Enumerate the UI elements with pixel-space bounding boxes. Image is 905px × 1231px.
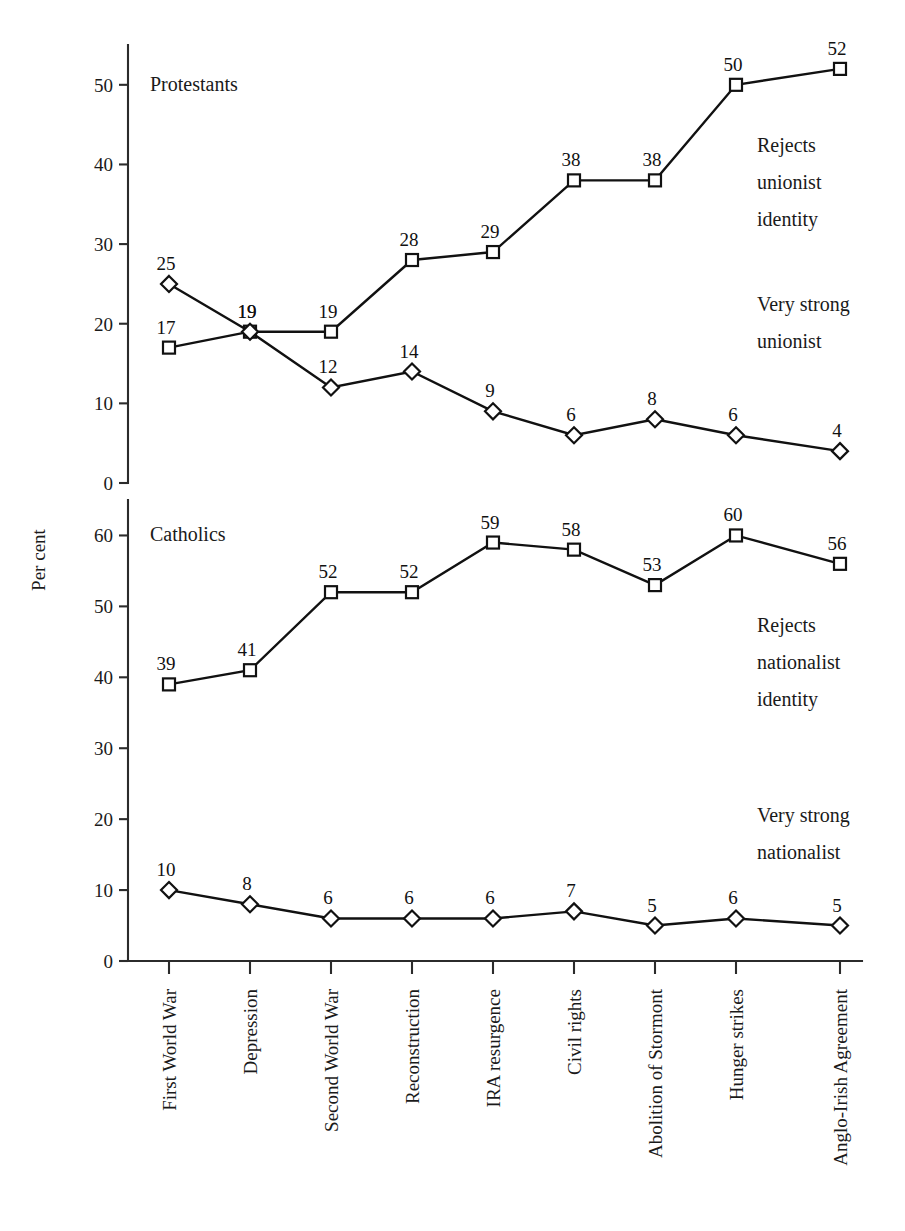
panel-catholics: 0102030405060First World WarDepressionSe… (94, 500, 862, 1166)
data-point-label: 60 (724, 504, 743, 525)
data-point-label: 52 (828, 38, 847, 59)
y-tick-label-40: 40 (94, 154, 113, 175)
data-point-marker (649, 579, 661, 591)
y-tick-label-10: 10 (94, 880, 113, 901)
data-point-label: 9 (485, 380, 495, 401)
panel-protestants: 01020304050Protestants171919282938385052… (94, 38, 850, 494)
panel-title-protestants: Protestants (150, 73, 238, 95)
data-point-marker (568, 544, 580, 556)
data-point-label: 56 (828, 533, 847, 554)
y-tick-label-10: 10 (94, 393, 113, 414)
legend-rejects-unionist-identity-line-2: identity (757, 208, 818, 231)
data-point-label: 6 (485, 887, 495, 908)
x-tick-label-2: Second World War (321, 988, 342, 1132)
data-point-label: 6 (566, 404, 576, 425)
legend-rejects-unionist-identity-line-0: Rejects (757, 134, 816, 157)
series-catholics-0: 394152525958536056 (157, 504, 847, 690)
y-tick-label-0: 0 (104, 473, 114, 494)
legend-very-strong-unionist-line-0: Very strong (757, 293, 850, 316)
data-point-marker (730, 529, 742, 541)
data-point-label: 52 (400, 561, 419, 582)
data-point-marker (568, 174, 580, 186)
y-tick-label-30: 30 (94, 234, 113, 255)
x-tick-label-7: Hunger strikes (726, 989, 747, 1100)
data-point-label: 17 (157, 317, 176, 338)
legend-very-strong-unionist-line-1: unionist (757, 330, 822, 352)
data-point-marker (832, 443, 848, 459)
data-point-marker (323, 910, 339, 926)
legend-rejects-nationalist-identity-line-0: Rejects (757, 614, 816, 637)
data-point-marker (404, 910, 420, 926)
data-point-marker (647, 918, 663, 934)
data-point-marker (244, 664, 256, 676)
x-tick-label-1: Depression (240, 989, 261, 1075)
data-point-marker (487, 246, 499, 258)
legend-very-strong-nationalist-line-1: nationalist (757, 841, 841, 863)
data-point-label: 38 (643, 149, 662, 170)
x-tick-label-8: Anglo-Irish Agreement (830, 988, 851, 1165)
data-point-label: 25 (157, 253, 176, 274)
data-point-marker (242, 896, 258, 912)
legend-very-strong-nationalist-line-0: Very strong (757, 804, 850, 827)
data-point-marker (325, 326, 337, 338)
x-tick-label-3: Reconstruction (402, 989, 423, 1105)
y-tick-label-50: 50 (94, 75, 113, 96)
data-point-marker (566, 427, 582, 443)
series-protestants-0: 171919282938385052 (157, 38, 847, 354)
data-point-label: 6 (404, 887, 414, 908)
chart-figure: 01020304050Protestants171919282938385052… (0, 0, 905, 1231)
x-tick-label-0: First World War (159, 988, 180, 1111)
y-tick-label-20: 20 (94, 809, 113, 830)
data-point-label: 8 (242, 873, 252, 894)
y-tick-label-20: 20 (94, 314, 113, 335)
data-point-marker (649, 174, 661, 186)
data-point-marker (647, 411, 663, 427)
x-tick-label-6: Abolition of Stormont (645, 988, 666, 1158)
data-point-marker (163, 342, 175, 354)
data-point-label: 4 (832, 420, 842, 441)
data-point-marker (834, 63, 846, 75)
data-point-marker (566, 903, 582, 919)
series-catholics-1: 1086667565 (157, 859, 849, 933)
data-point-label: 19 (319, 301, 338, 322)
data-point-marker (323, 379, 339, 395)
data-point-marker (834, 558, 846, 570)
legend-rejects-nationalist-identity-line-2: identity (757, 688, 818, 711)
data-point-marker (406, 586, 418, 598)
y-tick-label-0: 0 (104, 951, 114, 972)
data-point-label: 6 (728, 887, 738, 908)
series-protestants-1: 2519121496864 (157, 253, 849, 459)
data-point-label: 58 (562, 519, 581, 540)
series-line-0 (169, 69, 840, 348)
data-point-label: 10 (157, 859, 176, 880)
y-tick-label-60: 60 (94, 525, 113, 546)
data-point-label: 41 (238, 639, 257, 660)
data-point-label: 19 (238, 301, 257, 322)
data-point-label: 8 (647, 388, 657, 409)
data-point-label: 7 (566, 880, 576, 901)
y-tick-label-30: 30 (94, 738, 113, 759)
x-tick-label-4: IRA resurgence (483, 989, 504, 1107)
data-point-label: 59 (481, 512, 500, 533)
data-point-marker (485, 910, 501, 926)
data-point-label: 38 (562, 149, 581, 170)
panel-title-catholics: Catholics (150, 523, 226, 545)
data-point-label: 29 (481, 221, 500, 242)
data-point-label: 28 (400, 229, 419, 250)
data-point-label: 5 (647, 895, 657, 916)
data-point-label: 6 (323, 887, 333, 908)
two-panel-line-chart: 01020304050Protestants171919282938385052… (0, 0, 905, 1231)
data-point-label: 52 (319, 561, 338, 582)
data-point-marker (161, 882, 177, 898)
y-axis-title: Per cent (28, 528, 49, 590)
legend-rejects-unionist-identity-line-1: unionist (757, 171, 822, 193)
data-point-label: 6 (728, 404, 738, 425)
data-point-label: 12 (319, 356, 338, 377)
data-point-marker (832, 918, 848, 934)
data-point-marker (325, 586, 337, 598)
data-point-label: 5 (832, 895, 842, 916)
data-point-label: 50 (724, 54, 743, 75)
y-tick-label-50: 50 (94, 596, 113, 617)
y-tick-label-40: 40 (94, 667, 113, 688)
data-point-marker (487, 537, 499, 549)
